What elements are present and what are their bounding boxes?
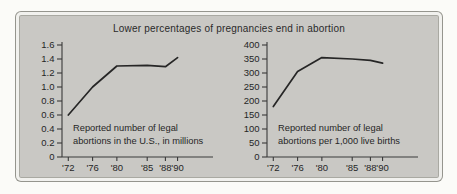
- right-chart-caption: Reported number of legal abortions per 1…: [278, 122, 400, 148]
- x-tick-labels: '72'76'80'85'88'90: [267, 157, 389, 173]
- y-tick-label: 0.6: [41, 109, 54, 120]
- y-tick-label: 1.2: [41, 67, 54, 78]
- y-tick-label: 0: [254, 151, 259, 162]
- y-tick-label: 1.4: [41, 53, 54, 64]
- data-line: [273, 58, 382, 107]
- y-tick-label: 0.2: [41, 137, 54, 148]
- y-tick-label: 0: [49, 151, 54, 162]
- y-tick-label: 50: [249, 137, 260, 148]
- right-chart-plot: 050100150200250300350400'72'76'80'85'88'…: [233, 38, 445, 188]
- y-tick-label: 100: [244, 123, 260, 134]
- y-tick-label: 0.4: [41, 123, 54, 134]
- y-tick-label: 1.0: [41, 81, 54, 92]
- y-tick-label: 150: [244, 109, 260, 120]
- x-tick-label: '90: [171, 162, 183, 173]
- x-tick-label: '76: [291, 162, 303, 173]
- left-chart-plot: 00.20.40.60.81.01.21.41.6'72'76'80'85'88…: [28, 38, 240, 188]
- y-tick-label: 200: [244, 95, 260, 106]
- x-tick-label: '88: [364, 162, 376, 173]
- x-tick-label: '76: [86, 162, 98, 173]
- x-tick-label: '72: [267, 162, 279, 173]
- figure-title: Lower percentages of pregnancies end in …: [16, 23, 442, 34]
- x-tick-label: '80: [111, 162, 123, 173]
- right-chart: 050100150200250300350400'72'76'80'85'88'…: [233, 38, 445, 188]
- x-tick-labels: '72'76'80'85'88'90: [62, 157, 184, 173]
- y-tick-label: 250: [244, 81, 260, 92]
- left-chart: 00.20.40.60.81.01.21.41.6'72'76'80'85'88…: [28, 38, 240, 188]
- y-tick-label: 300: [244, 67, 260, 78]
- data-line: [68, 58, 177, 115]
- left-chart-caption: Reported number of legal abortions in th…: [73, 122, 203, 148]
- y-tick-label: 1.6: [41, 39, 54, 50]
- y-tick-labels: 00.20.40.60.81.01.21.41.6: [41, 39, 62, 162]
- caption-line-2: abortions per 1,000 live births: [278, 135, 400, 148]
- x-tick-label: '90: [376, 162, 388, 173]
- caption-line-2: abortions in the U.S., in millions: [73, 135, 203, 148]
- y-tick-label: 400: [244, 39, 260, 50]
- y-tick-labels: 050100150200250300350400: [244, 39, 267, 162]
- caption-line-1: Reported number of legal: [278, 122, 400, 135]
- figure: Lower percentages of pregnancies end in …: [0, 0, 457, 194]
- y-tick-label: 0.8: [41, 95, 54, 106]
- x-tick-label: '88: [159, 162, 171, 173]
- x-tick-label: '85: [346, 162, 358, 173]
- y-tick-label: 350: [244, 53, 260, 64]
- caption-line-1: Reported number of legal: [73, 122, 203, 135]
- x-tick-label: '80: [316, 162, 328, 173]
- x-tick-label: '85: [141, 162, 153, 173]
- x-tick-label: '72: [62, 162, 74, 173]
